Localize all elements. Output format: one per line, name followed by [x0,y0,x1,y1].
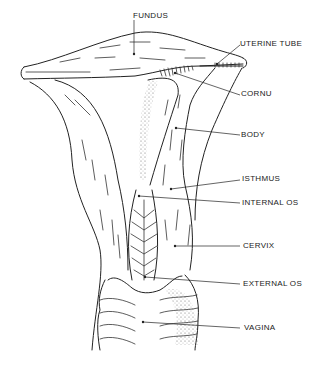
label-isthmus: ISTHMUS [242,175,280,183]
uterus-diagram: FUNDUS UTERINE TUBE CORNU BODY ISTHMUS I… [0,0,324,366]
label-cornu: CORNU [241,90,272,98]
body-stipple [139,80,158,180]
label-external-os: EXTERNAL OS [243,280,302,288]
label-internal-os: INTERNAL OS [242,199,298,207]
label-body: BODY [241,131,265,139]
left-uterine-wall [30,80,128,350]
cornu-shape [160,66,193,76]
label-uterine-tube: UTERINE TUBE [240,40,302,48]
label-fundus: FUNDUS [133,12,168,20]
label-vagina: VAGINA [244,324,275,332]
right-uterine-wall [148,68,242,270]
label-cervix: CERVIX [243,242,274,250]
cervical-canal [129,190,158,280]
anatomy-drawing [0,0,324,366]
vagina-shape [98,275,199,350]
